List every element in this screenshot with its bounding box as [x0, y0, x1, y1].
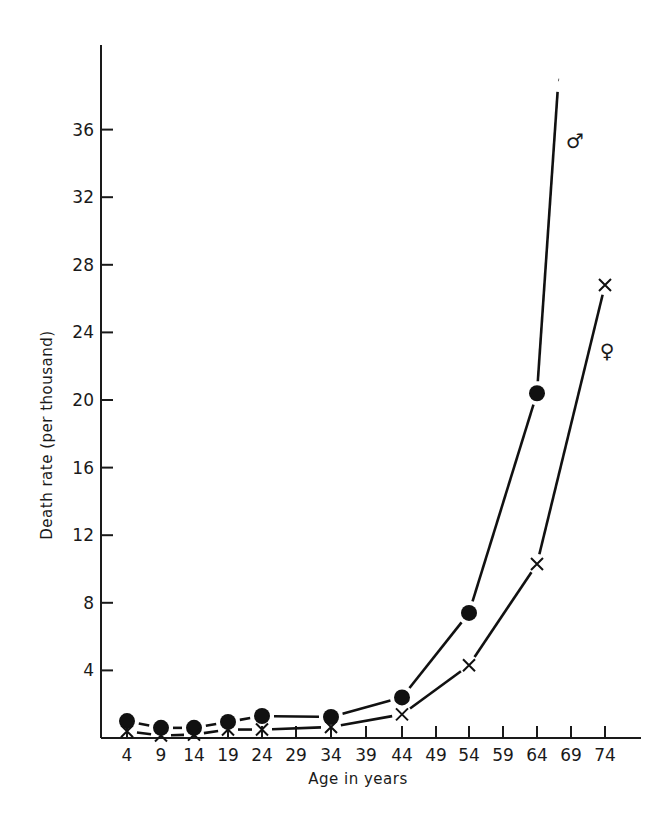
y-tick-label: 4	[83, 660, 94, 680]
female-symbol-label: ♀	[600, 339, 615, 363]
female-data-point	[463, 659, 475, 671]
series-line-segment	[409, 622, 461, 688]
x-tick-label: 64	[526, 745, 548, 765]
y-tick-label: 12	[72, 525, 94, 545]
female-data-point	[396, 708, 408, 720]
x-tick-label: 14	[183, 745, 205, 765]
series-line-segment	[240, 718, 250, 720]
x-tick-label: 59	[492, 745, 514, 765]
x-tick-label: 69	[560, 745, 582, 765]
male-symbol-label: ♂	[566, 129, 584, 153]
series-male	[119, 80, 559, 736]
x-tick-label: 4	[122, 745, 133, 765]
y-axis-ticks: 4812162024283236	[72, 120, 113, 681]
series-line-segment	[473, 405, 534, 602]
x-axis: 4914192429343944495459646974	[101, 726, 641, 765]
x-tick-label: 74	[594, 745, 616, 765]
x-axis-title: Age in years	[308, 770, 408, 788]
male-data-point	[254, 708, 270, 724]
y-tick-label: 32	[72, 187, 94, 207]
male-data-point	[529, 385, 545, 401]
male-data-point	[394, 689, 410, 705]
x-tick-label: 19	[217, 745, 239, 765]
x-tick-label: 9	[156, 745, 167, 765]
x-tick-label: 44	[391, 745, 413, 765]
y-tick-label: 16	[72, 458, 94, 478]
series-line-segment	[137, 732, 151, 734]
male-data-point	[220, 714, 236, 730]
series-line-segment	[538, 92, 558, 381]
male-data-point	[461, 605, 477, 621]
x-tick-label: 54	[458, 745, 480, 765]
y-tick-label: 36	[72, 120, 94, 140]
x-tick-label: 24	[251, 745, 273, 765]
male-data-point	[153, 720, 169, 736]
series-line-segment	[475, 572, 532, 657]
y-axis: 4812162024283236	[72, 45, 113, 738]
x-tick-label: 29	[285, 745, 307, 765]
chart: 4812162024283236 49141924293439444954596…	[0, 0, 671, 820]
series-line-segment	[206, 724, 216, 726]
female-data-point	[599, 279, 611, 291]
y-tick-label: 8	[83, 593, 94, 613]
y-axis-title: Death rate (per thousand)	[38, 330, 56, 539]
series-line-segment	[343, 701, 391, 714]
y-tick-label: 24	[72, 322, 94, 342]
x-tick-label: 39	[355, 745, 377, 765]
series-line-segment	[274, 716, 319, 717]
series-line-segment	[341, 716, 392, 725]
x-tick-label: 49	[425, 745, 447, 765]
series-line-segment	[204, 731, 218, 733]
y-tick-label: 28	[72, 255, 94, 275]
y-tick-label: 20	[72, 390, 94, 410]
series-line-segment	[139, 723, 149, 725]
series-line-segment	[539, 295, 602, 554]
series-line-segment	[272, 727, 321, 729]
series-female	[121, 279, 611, 741]
plot-area	[119, 80, 611, 742]
x-tick-label: 34	[320, 745, 342, 765]
female-data-point	[531, 558, 543, 570]
